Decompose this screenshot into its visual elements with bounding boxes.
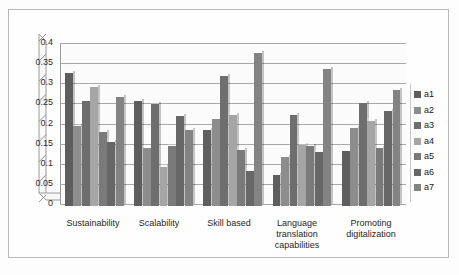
bar-top-face xyxy=(185,127,193,130)
legend-label: a5 xyxy=(424,152,434,161)
bar-top-face xyxy=(151,101,159,104)
bar-a4-5 xyxy=(367,121,375,206)
y-axis-tick-label: 0.2 xyxy=(40,119,53,128)
bar-a4-4 xyxy=(298,145,306,206)
chart-frame: 0.40.350.30.250.20.150.10.050 Sustainabi… xyxy=(8,9,449,258)
y-axis-tick-label: 0.1 xyxy=(40,159,53,168)
bar-top-face xyxy=(376,145,384,148)
bar-a3-1 xyxy=(82,101,90,206)
y-axis-tick-label: 0.3 xyxy=(40,78,53,87)
bar-top-face xyxy=(160,164,168,167)
x-axis-label-2: Scalability xyxy=(125,218,193,229)
bar-top-face xyxy=(290,112,298,115)
bar-top-face xyxy=(298,142,306,145)
bar-top-face xyxy=(143,145,151,148)
legend-swatch-icon xyxy=(414,122,421,129)
x-axis-label-3: Skill based xyxy=(195,218,263,229)
bar-a7-3 xyxy=(254,53,262,206)
bar-top-face xyxy=(99,129,107,132)
legend-label: a6 xyxy=(424,168,434,177)
bar-a2-4 xyxy=(281,157,289,206)
bar-top-face xyxy=(359,100,367,103)
y-axis-tick-label: 0.05 xyxy=(35,179,53,188)
bar-top-face xyxy=(134,98,142,101)
bar-side-face xyxy=(331,67,333,204)
y-axis-tick-label: 0.25 xyxy=(35,98,53,107)
bar-a3-5 xyxy=(359,103,367,206)
bar-top-face xyxy=(273,172,281,175)
bar-side-face xyxy=(124,95,126,204)
legend-item-a6[interactable]: a6 xyxy=(414,166,434,179)
bar-a4-2 xyxy=(160,167,168,206)
y-axis-tick-label: 0 xyxy=(48,199,53,208)
legend-label: a7 xyxy=(424,183,434,192)
bar-top-face xyxy=(168,143,176,146)
legend-swatch-icon xyxy=(414,153,421,160)
bar-top-face xyxy=(107,139,115,142)
legend-label: a3 xyxy=(424,121,434,130)
bar-top-face xyxy=(393,87,401,90)
legend-label: a2 xyxy=(424,106,434,115)
legend-swatch-icon xyxy=(414,138,421,145)
bar-top-face xyxy=(315,149,323,152)
legend-item-a3[interactable]: a3 xyxy=(414,119,434,132)
bar-top-face xyxy=(281,154,289,157)
bar-top-face xyxy=(116,94,124,97)
bar-a5-4 xyxy=(306,146,314,206)
bar-a7-4 xyxy=(323,69,331,206)
bar-side-face xyxy=(400,88,402,204)
bar-side-face xyxy=(262,51,264,204)
bar-a6-3 xyxy=(246,171,254,206)
bar-top-face xyxy=(65,70,73,73)
bar-top-face xyxy=(229,112,237,115)
bar-a5-2 xyxy=(168,146,176,206)
chart-legend: a1a2a3a4a5a6a7 xyxy=(414,88,456,200)
bar-top-face xyxy=(237,147,245,150)
bar-a1-4 xyxy=(273,175,281,206)
bar-a1-2 xyxy=(134,101,142,206)
bar-a5-1 xyxy=(99,132,107,206)
bar-a7-5 xyxy=(393,90,401,206)
bar-side-face xyxy=(193,128,195,204)
x-axis-category-labels: SustainabilityScalabilitySkill basedLang… xyxy=(45,212,417,262)
bar-a4-3 xyxy=(229,115,237,206)
bar-top-face xyxy=(254,50,262,53)
bar-a1-3 xyxy=(203,130,211,206)
bar-top-face xyxy=(342,148,350,151)
bar-top-face xyxy=(323,66,331,69)
legend-item-a4[interactable]: a4 xyxy=(414,135,434,148)
legend-item-a5[interactable]: a5 xyxy=(414,150,434,163)
y-axis: 0.40.350.30.250.20.150.10.050 xyxy=(19,36,53,214)
bar-a6-2 xyxy=(176,116,184,206)
bar-top-face xyxy=(176,113,184,116)
bar-a1-1 xyxy=(65,73,73,206)
bar-a3-2 xyxy=(151,104,159,206)
bar-top-face xyxy=(367,118,375,121)
x-axis-label-5: Promoting digitalization xyxy=(331,218,411,240)
legend-item-a7[interactable]: a7 xyxy=(414,181,434,194)
legend-label: a1 xyxy=(424,90,434,99)
legend-item-a1[interactable]: a1 xyxy=(414,88,434,101)
bar-a4-1 xyxy=(90,87,98,206)
legend-item-a2[interactable]: a2 xyxy=(414,104,434,117)
x-axis-label-1: Sustainability xyxy=(56,218,130,229)
bar-a7-1 xyxy=(116,97,124,206)
legend-swatch-icon xyxy=(414,91,421,98)
bar-top-face xyxy=(82,98,90,101)
x-axis-label-4: Language translation capabilities xyxy=(263,218,331,251)
bar-top-face xyxy=(220,73,228,76)
legend-swatch-icon xyxy=(414,107,421,114)
bar-top-face xyxy=(203,127,211,130)
bar-a5-3 xyxy=(237,150,245,206)
bar-a1-5 xyxy=(342,151,350,206)
bar-top-face xyxy=(246,168,254,171)
bar-a2-3 xyxy=(212,119,220,206)
bar-top-face xyxy=(212,116,220,119)
bar-a2-1 xyxy=(73,126,81,207)
bar-top-face xyxy=(350,125,358,128)
bar-a3-4 xyxy=(290,115,298,206)
bars-layer xyxy=(54,43,406,206)
bar-a6-5 xyxy=(384,111,392,206)
bar-a6-1 xyxy=(107,142,115,206)
bar-a2-5 xyxy=(350,128,358,206)
